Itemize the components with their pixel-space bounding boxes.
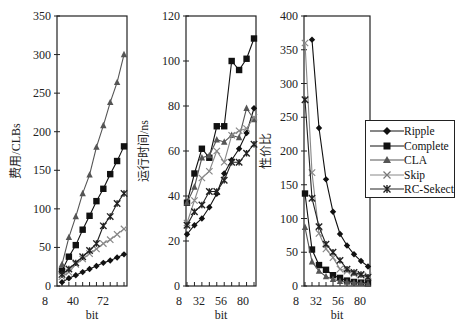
legend-label: CLA <box>404 154 427 166</box>
x-axis-label: bit <box>331 308 344 322</box>
legend-label: Skip <box>404 169 425 181</box>
x-tick-label: 56 <box>215 294 227 308</box>
chart-1: 05010015020025030035084072bit费用/CLBs <box>9 9 127 322</box>
y-tick-label: 200 <box>33 125 51 139</box>
x-tick-label: 32 <box>310 294 322 308</box>
x-tick-label: 8 <box>293 294 299 308</box>
x-tick-label: 80 <box>354 294 366 308</box>
x-tick-label: 56 <box>332 294 344 308</box>
y-tick-label: 120 <box>162 9 180 23</box>
y-axis-label: 费用/CLBs <box>9 123 23 179</box>
legend-item-rc-sekect: RC-Sekect <box>370 182 454 196</box>
x-axis-label: bit <box>86 308 99 322</box>
diamond-marker-icon <box>370 125 404 137</box>
legend-label: Ripple <box>404 125 435 137</box>
y-tick-label: 40 <box>168 189 180 203</box>
y-tick-label: 0 <box>45 279 51 293</box>
y-tick-label: 50 <box>286 245 298 259</box>
y-tick-label: 300 <box>280 77 298 91</box>
y-tick-label: 100 <box>33 202 51 216</box>
chart-3: 0501001502002503003504008325680bit性价比 <box>259 9 371 322</box>
y-tick-label: 0 <box>292 279 298 293</box>
legend-item-skip: Skip <box>370 168 425 182</box>
chart-legend: Ripple Complete CLA Skip RC-Sekect <box>365 120 455 198</box>
y-axis-label: 运行时间/ns <box>137 120 151 182</box>
x-marker-icon <box>370 169 404 181</box>
x-tick-label: 32 <box>193 294 205 308</box>
y-tick-label: 100 <box>162 54 180 68</box>
y-tick-label: 400 <box>280 9 298 23</box>
star-marker-icon <box>370 183 404 195</box>
x-axis-label: bit <box>215 308 228 322</box>
y-tick-label: 300 <box>33 48 51 62</box>
x-tick-label: 72 <box>97 294 109 308</box>
y-tick-label: 200 <box>280 144 298 158</box>
y-tick-label: 60 <box>168 144 180 158</box>
y-tick-label: 20 <box>168 234 180 248</box>
legend-item-cla: CLA <box>370 153 427 167</box>
y-tick-label: 50 <box>39 240 51 254</box>
x-tick-label: 8 <box>176 294 182 308</box>
chart-2: 0204060801001208325680bit运行时间/ns <box>137 9 257 322</box>
y-tick-label: 250 <box>33 86 51 100</box>
legend-item-ripple: Ripple <box>370 124 435 138</box>
y-tick-label: 250 <box>280 110 298 124</box>
legend-label: Complete <box>404 140 449 152</box>
legend-item-complete: Complete <box>370 139 449 153</box>
series-line-skip <box>305 43 368 276</box>
y-tick-label: 150 <box>280 178 298 192</box>
triangle-marker-icon <box>370 154 404 166</box>
y-tick-label: 150 <box>33 163 51 177</box>
y-tick-label: 350 <box>280 43 298 57</box>
x-tick-label: 8 <box>42 294 48 308</box>
y-tick-label: 0 <box>174 279 180 293</box>
legend-label: RC-Sekect <box>404 183 454 195</box>
square-marker-icon <box>370 140 404 152</box>
x-tick-label: 40 <box>67 294 79 308</box>
y-axis-label: 性价比 <box>259 133 273 169</box>
y-tick-label: 350 <box>33 9 51 23</box>
x-tick-label: 80 <box>237 294 249 308</box>
y-tick-label: 100 <box>280 212 298 226</box>
y-tick-label: 80 <box>168 99 180 113</box>
